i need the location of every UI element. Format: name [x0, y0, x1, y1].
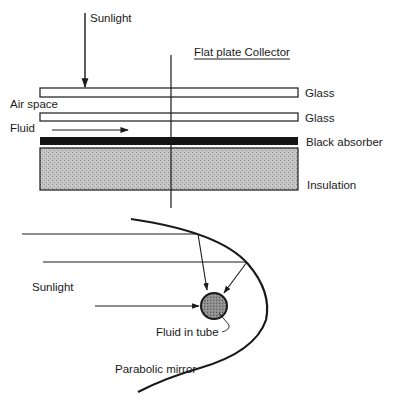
reflected-ray-2 [224, 262, 247, 293]
insulation-label: Insulation [307, 179, 356, 191]
flat-plate-collector: Sunlight Flat plate Collector Glass Air … [10, 12, 383, 208]
glass-label-2: Glass [305, 112, 335, 124]
flat-plate-title: Flat plate Collector [194, 46, 290, 58]
parabolic-mirror-label: Parabolic mirror [115, 363, 196, 375]
glass-label-1: Glass [305, 87, 335, 99]
solar-collector-diagram: Sunlight Flat plate Collector Glass Air … [0, 0, 397, 404]
black-absorber-label: Black absorber [306, 136, 383, 148]
parabolic-collector: Sunlight Fluid in tube Parabolic mirror [22, 219, 267, 392]
insulation-layer [40, 148, 298, 190]
fluid-in-tube-label: Fluid in tube [156, 326, 219, 338]
sunlight-label: Sunlight [90, 12, 132, 24]
fluid-tube [201, 293, 227, 319]
sunlight-label-parabolic: Sunlight [32, 281, 74, 293]
air-space-label: Air space [10, 98, 58, 110]
fluid-label: Fluid [10, 122, 35, 134]
glass-layer-1 [40, 88, 298, 97]
black-absorber-layer [40, 137, 298, 145]
glass-layer-2 [40, 113, 298, 121]
